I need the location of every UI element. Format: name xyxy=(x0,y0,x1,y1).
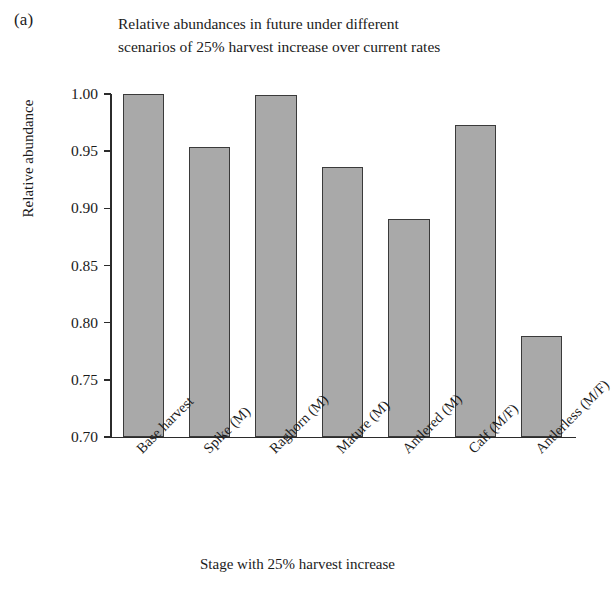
bar xyxy=(123,94,164,437)
chart-title-line-1: Relative abundances in future under diff… xyxy=(118,12,558,35)
y-axis-tick-label: 0.80 xyxy=(36,315,98,331)
chart-title-line-2: scenarios of 25% harvest increase over c… xyxy=(118,35,558,58)
y-axis-tick-label: 0.75 xyxy=(36,372,98,388)
y-axis-tick-label: 1.00 xyxy=(36,86,98,102)
bar xyxy=(255,95,296,437)
bar xyxy=(455,125,496,437)
y-axis-tick-label: 0.90 xyxy=(36,200,98,216)
bar xyxy=(189,147,230,437)
y-axis-title: Relative abundance xyxy=(20,59,37,259)
y-axis-tick-label: 0.70 xyxy=(36,429,98,445)
y-axis-tick-label: 0.85 xyxy=(36,258,98,274)
bar xyxy=(322,167,363,437)
x-axis-title: Stage with 25% harvest increase xyxy=(0,556,595,573)
y-axis-tick-label: 0.95 xyxy=(36,143,98,159)
panel-label: (a) xyxy=(14,10,33,30)
chart-title: Relative abundances in future under diff… xyxy=(118,12,558,58)
plot-area xyxy=(110,94,575,437)
bar xyxy=(388,219,429,437)
